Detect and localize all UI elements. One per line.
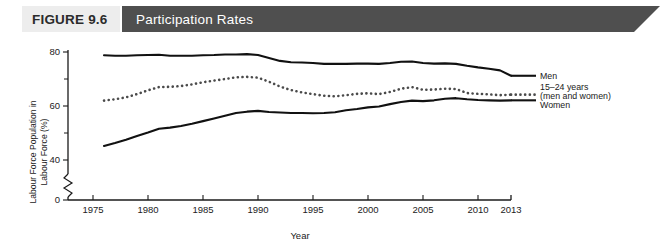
x-axis-tick-label: 2013 [500,204,521,215]
x-axis-tick-label: 1990 [247,204,268,215]
series-line [104,54,511,76]
chart-axes: 0406080197519801985199019952000200520102… [49,46,521,215]
x-axis-tick-label: 2005 [412,204,433,215]
y-axis-tick-label: 40 [49,154,60,165]
line-chart: Labour Force Population in Labour Force … [0,32,660,252]
x-axis-tick-label: 2010 [467,204,488,215]
figure-number-label: FIGURE 9.6 [32,12,108,27]
y-axis-tick-label: 80 [49,46,60,57]
y-axis-tick-label: 0 [55,194,60,205]
x-axis-tick-label: 1995 [302,204,323,215]
figure-container: FIGURE 9.6 Participation Rates Labour Fo… [0,0,660,252]
figure-number-box: FIGURE 9.6 [22,6,120,32]
legend-label: 15–24 years [540,82,589,92]
chart-legend: Men15–24 years(men and women)Women [511,71,611,111]
legend-label: Women [540,100,570,110]
svg-text:Labour Force Population in: Labour Force Population in [28,100,38,203]
figure-title-label: Participation Rates [122,12,253,27]
x-axis-tick-label: 1980 [137,204,158,215]
y-axis-title: Labour Force Population in Labour Force … [28,100,49,203]
svg-text:Labour Force (%): Labour Force (%) [39,118,49,185]
series-line [104,98,511,146]
x-axis-title: Year [290,230,309,241]
axis-break-symbol [64,174,72,197]
x-axis-tick-label: 2000 [357,204,378,215]
legend-label: Men [540,71,557,81]
chart-series [104,54,511,146]
figure-banner: FIGURE 9.6 Participation Rates [0,6,660,32]
chart-plot-area: Labour Force Population in Labour Force … [0,32,660,252]
y-axis-tick-label: 60 [49,100,60,111]
figure-title-box: Participation Rates [122,6,660,32]
x-axis-tick-label: 1985 [192,204,213,215]
x-axis-tick-label: 1975 [82,204,103,215]
series-line [104,77,511,101]
